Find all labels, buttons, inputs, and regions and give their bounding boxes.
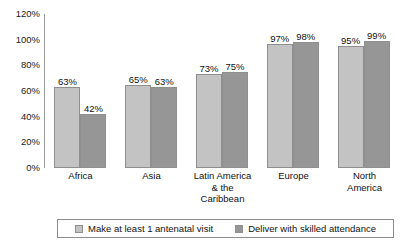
bars: 73%75% [196, 14, 248, 168]
legend-label-series-0: Make at least 1 antenatal visit [88, 224, 213, 234]
bar-value-label: 63% [58, 77, 77, 87]
legend-item-1[interactable]: Deliver with skilled attendance [235, 224, 376, 234]
bar-group: 95%99% [338, 14, 390, 168]
bar[interactable]: 65% [125, 85, 151, 168]
legend-label-series-1: Deliver with skilled attendance [248, 224, 376, 234]
bar-groups: 63%42%65%63%73%75%97%98%95%99% [45, 14, 399, 168]
x-axis-label: NorthAmerica [332, 170, 398, 193]
bar-value-label: 99% [367, 31, 386, 41]
bar-value-label: 75% [225, 62, 244, 72]
bar-chart: 120%100%80%60%40%20%0% 63%42%65%63%73%75… [0, 0, 403, 244]
y-axis-tick-0: 0% [0, 163, 40, 173]
y-axis-tick-60: 60% [0, 86, 40, 96]
bar[interactable]: 97% [267, 44, 293, 168]
plot-area: 120%100%80%60%40%20%0% 63%42%65%63%73%75… [44, 14, 399, 168]
bar-value-label: 95% [341, 36, 360, 46]
legend-swatch-icon-series-0 [75, 225, 83, 233]
bar[interactable]: 95% [338, 46, 364, 168]
y-axis-tick-80: 80% [0, 60, 40, 70]
x-axis-label: Asia [119, 170, 185, 182]
bar[interactable]: 75% [222, 72, 248, 168]
bar-group: 65%63% [125, 14, 177, 168]
bar[interactable]: 42% [80, 114, 106, 168]
bar-value-label: 63% [155, 77, 174, 87]
bar[interactable]: 99% [364, 41, 390, 168]
bar-value-label: 73% [199, 64, 218, 74]
y-axis-tick-100: 100% [0, 35, 40, 45]
legend-item-0[interactable]: Make at least 1 antenatal visit [75, 224, 213, 234]
x-axis-label: Europe [261, 170, 327, 182]
x-axis-tick-labels: AfricaAsiaLatin America& theCaribbeanEur… [45, 170, 400, 212]
y-axis-tick-20: 20% [0, 137, 40, 147]
x-axis-label: Latin America& theCaribbean [190, 170, 256, 205]
y-axis-tick-120: 120% [0, 9, 40, 19]
bar-value-label: 98% [296, 32, 315, 42]
bar[interactable]: 63% [151, 87, 177, 168]
x-axis-label: Africa [48, 170, 114, 182]
bars: 63%42% [54, 14, 106, 168]
bar-value-label: 65% [129, 75, 148, 85]
bar-group: 73%75% [196, 14, 248, 168]
bar-value-label: 42% [84, 104, 103, 114]
bar[interactable]: 63% [54, 87, 80, 168]
bars: 65%63% [125, 14, 177, 168]
bar-group: 63%42% [54, 14, 106, 168]
bars: 97%98% [267, 14, 319, 168]
bar[interactable]: 73% [196, 74, 222, 168]
bar-value-label: 97% [270, 34, 289, 44]
legend-swatch-icon-series-1 [235, 225, 243, 233]
chart-legend: Make at least 1 antenatal visit Deliver … [57, 219, 394, 238]
bar[interactable]: 98% [293, 42, 319, 168]
y-axis-tick-40: 40% [0, 112, 40, 122]
bars: 95%99% [338, 14, 390, 168]
bar-group: 97%98% [267, 14, 319, 168]
